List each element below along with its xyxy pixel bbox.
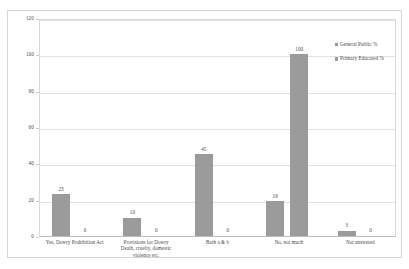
- x-axis: Yes, Dowry Prohibition ActProvisions for…: [39, 239, 396, 265]
- legend-label: Primary Educated %: [340, 56, 384, 61]
- x-category-label: Provisions for DowryDeath, cruelty, dome…: [110, 239, 181, 258]
- x-category-line: Both a & b: [182, 239, 253, 245]
- x-category-line: No, not much: [253, 239, 324, 245]
- x-category-label: Not answered: [325, 239, 396, 245]
- chart-figure: 020406080100120 2301004501910030 Yes, Do…: [7, 10, 402, 258]
- bar-value-label: 100: [287, 47, 311, 52]
- bar-value-label: 0: [73, 228, 97, 233]
- bar: [266, 201, 284, 236]
- legend-label: General Public %: [340, 42, 377, 47]
- x-category-line: Not answered: [325, 239, 396, 245]
- bar-group: 19100: [254, 20, 325, 236]
- bar-value-label: 23: [49, 187, 73, 192]
- y-tick-label: 80: [29, 89, 34, 94]
- bar-group: 450: [183, 20, 254, 236]
- bar: [338, 231, 356, 236]
- x-category-line: violence etc.: [110, 252, 181, 258]
- x-category-label: Both a & b: [182, 239, 253, 245]
- x-category-line: Death, cruelty, domestic: [110, 245, 181, 251]
- bar-value-label: 0: [359, 228, 383, 233]
- y-tick-label: 120: [26, 16, 34, 21]
- x-category-label: No, not much: [253, 239, 324, 245]
- bar-value-label: 0: [216, 228, 240, 233]
- bar: [290, 54, 308, 236]
- legend-swatch-icon: [335, 57, 338, 60]
- bar-group: 230: [40, 20, 111, 236]
- y-tick-label: 40: [29, 162, 34, 167]
- x-category-line: Yes, Dowry Prohibition Act: [39, 239, 110, 245]
- y-axis: 020406080100120: [8, 11, 39, 245]
- legend-swatch-icon: [335, 43, 338, 46]
- y-tick-label: 60: [29, 125, 34, 130]
- bar-value-label: 19: [263, 194, 287, 199]
- bar-value-label: 10: [120, 210, 144, 215]
- bar-value-label: 0: [144, 228, 168, 233]
- chart-legend: General Public %Primary Educated %: [335, 42, 405, 70]
- bar-group: 100: [111, 20, 182, 236]
- y-tick-mark: [36, 237, 39, 238]
- bar: [195, 154, 213, 236]
- bar: [123, 218, 141, 236]
- legend-item: General Public %: [335, 42, 405, 47]
- x-category-label: Yes, Dowry Prohibition Act: [39, 239, 110, 245]
- y-tick-label: 0: [31, 234, 34, 239]
- y-tick-label: 100: [26, 53, 34, 58]
- bar-value-label: 3: [335, 223, 359, 228]
- bar-value-label: 45: [192, 147, 216, 152]
- bar: [52, 194, 70, 236]
- y-tick-label: 20: [29, 198, 34, 203]
- legend-item: Primary Educated %: [335, 56, 405, 61]
